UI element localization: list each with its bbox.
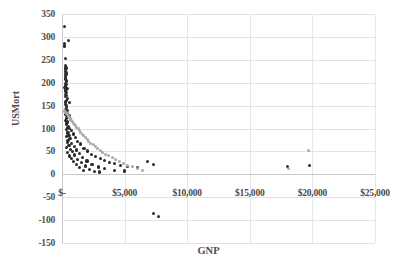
data-point — [103, 159, 106, 162]
gridline-vertical — [125, 14, 126, 243]
data-point — [63, 110, 66, 113]
data-point — [72, 122, 75, 125]
data-point — [146, 160, 149, 163]
gridline-vertical — [250, 14, 251, 243]
gridline-horizontal — [62, 60, 375, 61]
x-axis-title: GNP — [0, 245, 417, 256]
data-point — [136, 166, 139, 169]
data-point — [287, 167, 290, 170]
x-axis-tick-label: $25,000 — [340, 188, 410, 198]
gridline-horizontal — [62, 243, 375, 244]
data-point — [72, 132, 75, 135]
x-axis-tick-label: $20,000 — [277, 188, 347, 198]
data-point — [71, 120, 74, 123]
scatter-chart: 350300250200150100500-50-100-150 USMort … — [0, 0, 417, 263]
data-point — [111, 156, 114, 159]
data-point — [118, 160, 121, 163]
y-axis-tick-label: 0 — [3, 169, 55, 179]
data-point — [65, 123, 68, 126]
data-point — [85, 159, 88, 162]
data-point — [79, 142, 82, 145]
gridline-horizontal — [62, 220, 375, 221]
data-point — [64, 72, 67, 75]
data-point — [86, 138, 89, 141]
data-point — [65, 99, 68, 102]
data-point — [70, 142, 73, 145]
x-axis-tick-label: $5,000 — [90, 188, 160, 198]
data-point — [157, 215, 160, 218]
data-point — [68, 116, 71, 119]
y-axis-tick-label: 300 — [3, 32, 55, 42]
data-point — [78, 152, 81, 155]
y-axis-title: USMort — [10, 74, 21, 144]
x-axis-tick-label: $10,000 — [152, 188, 222, 198]
data-point — [78, 166, 81, 169]
data-point — [64, 108, 67, 111]
data-point — [68, 154, 71, 157]
data-point — [73, 145, 76, 148]
data-point — [72, 160, 75, 163]
data-point — [75, 163, 78, 166]
y-axis-line — [62, 14, 63, 243]
data-point — [68, 101, 71, 104]
data-point — [65, 73, 68, 76]
data-point — [66, 139, 69, 142]
data-point — [65, 94, 68, 97]
data-point — [131, 165, 134, 168]
data-point — [94, 145, 97, 148]
data-point — [81, 156, 84, 159]
data-point — [65, 112, 68, 115]
data-point — [308, 164, 311, 167]
data-point — [65, 79, 68, 82]
data-point — [76, 158, 79, 161]
data-point — [113, 162, 116, 165]
data-point — [152, 212, 155, 215]
y-axis-tick-label: -100 — [3, 215, 55, 225]
data-point — [80, 161, 83, 164]
data-point — [67, 114, 70, 117]
gridline-vertical — [375, 14, 376, 243]
data-point — [90, 153, 93, 156]
data-point — [97, 165, 100, 168]
gridline-horizontal — [62, 106, 375, 107]
data-point — [96, 147, 99, 150]
data-point — [65, 135, 68, 138]
data-point — [89, 142, 92, 145]
data-point — [65, 116, 68, 119]
data-point — [152, 163, 155, 166]
data-point — [76, 140, 79, 143]
data-point — [103, 167, 106, 170]
data-point — [64, 68, 67, 71]
data-point — [68, 137, 71, 140]
data-point — [63, 44, 66, 47]
data-point — [74, 136, 77, 139]
y-axis-tick-label: 250 — [3, 55, 55, 65]
data-point — [66, 113, 69, 116]
data-point — [69, 148, 72, 151]
data-point — [113, 169, 116, 172]
data-point — [64, 100, 67, 103]
data-point — [69, 117, 72, 120]
data-point — [64, 77, 67, 80]
data-point — [64, 93, 67, 96]
data-point — [73, 153, 76, 156]
data-point — [63, 42, 66, 45]
data-point — [67, 114, 70, 117]
data-point — [82, 134, 85, 137]
data-point — [66, 109, 69, 112]
data-point — [66, 120, 69, 123]
data-point — [65, 146, 68, 149]
data-point — [67, 144, 70, 147]
x-axis-tick-label: $15,000 — [215, 188, 285, 198]
data-point — [79, 131, 82, 134]
data-point — [82, 147, 85, 150]
data-point — [108, 161, 111, 164]
gridline-vertical — [187, 14, 188, 243]
data-point — [64, 111, 67, 114]
gridline-horizontal — [62, 151, 375, 152]
data-point — [94, 155, 97, 158]
plot-area — [62, 14, 375, 243]
data-point — [65, 110, 68, 113]
data-point — [64, 74, 67, 77]
data-point — [66, 112, 69, 115]
